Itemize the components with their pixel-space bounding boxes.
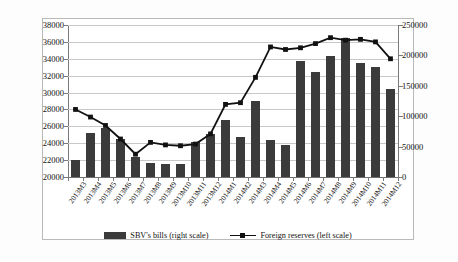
left-axis-tick-label: 22000 [43,156,64,164]
left-axis-tick-label: 36000 [43,38,64,46]
left-axis-tickmark [64,25,68,26]
legend-label-sbv-bills: SBV's bills (right scale) [130,231,208,240]
line-marker [103,123,108,128]
right-axis-tickmark [399,25,403,26]
line-marker [268,45,273,50]
right-axis-tick-label: 50000 [402,143,423,151]
plot-right-border [398,25,399,178]
right-axis-tick-label: 100000 [402,112,428,120]
right-axis-tick-label: 150000 [402,82,428,90]
left-axis-tickmark [64,143,68,144]
line-marker [118,137,123,142]
line-marker [238,100,243,105]
left-axis-tick-label: 32000 [43,72,64,80]
line-marker [148,140,153,145]
legend-item-sbv-bills: SBV's bills (right scale) [104,231,208,240]
left-axis-tick-label: 26000 [43,122,64,130]
line-marker [358,37,363,42]
line-marker [163,143,168,148]
line-marker [253,75,258,80]
left-axis-tickmark [64,59,68,60]
left-axis-tick-label: 30000 [43,89,64,97]
right-axis-tickmark [399,177,403,178]
line-marker [313,41,318,46]
chart-container: 2000022000240002600028000300003200034000… [0,0,458,262]
left-y-axis: 2000022000240002600028000300003200034000… [0,25,64,177]
line-marker [328,35,333,40]
line-marker [208,132,213,137]
bar-swatch-icon [104,232,126,239]
legend-item-foreign-reserves: Foreign reserves (left scale) [230,231,351,240]
right-axis-tick-label: 250000 [402,21,428,29]
line-swatch-icon [230,232,256,239]
line-marker [343,38,348,43]
right-axis-tickmark [399,116,403,117]
line-series-foreign-reserves [68,25,398,177]
line-marker [88,115,93,120]
left-axis-tickmark [64,160,68,161]
left-axis-tickmark [64,42,68,43]
left-axis-tickmark [64,177,68,178]
left-axis-tick-label: 24000 [43,139,64,147]
left-axis-tickmark [64,126,68,127]
right-axis-tickmark [399,147,403,148]
left-axis-tick-label: 34000 [43,55,64,63]
left-axis-tickmark [64,93,68,94]
line-marker [178,143,183,148]
left-axis-tick-label: 28000 [43,105,64,113]
x-axis-labels: 2013M32013M42013M52013M62013M72013M82013… [68,180,408,226]
line-marker [193,142,198,147]
line-marker [133,152,138,157]
left-axis-tickmark [64,76,68,77]
left-axis-tickmark [64,109,68,110]
line-marker [388,56,393,61]
line-marker [298,45,303,50]
right-axis-tickmark [399,86,403,87]
right-axis-tickmark [399,55,403,56]
line-marker [73,107,78,112]
chart-legend: SBV's bills (right scale) Foreign reserv… [42,227,414,243]
left-axis-tick-label: 20000 [43,173,64,181]
line-marker [373,39,378,44]
right-y-axis: 050000100000150000200000250000 [402,25,456,177]
left-axis-tick-label: 38000 [43,21,64,29]
line-marker [223,102,228,107]
legend-label-foreign-reserves: Foreign reserves (left scale) [260,231,351,240]
line-marker [283,47,288,52]
right-axis-tick-label: 200000 [402,51,428,59]
reserves-line-path [68,25,398,177]
